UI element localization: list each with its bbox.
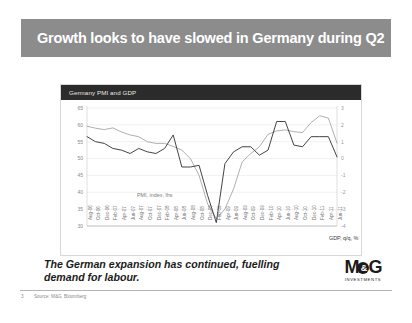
x-axis-tick-label: Jun-07	[131, 206, 136, 220]
x-axis-tick-label: Oct-08	[200, 206, 205, 220]
x-axis-tick-label: Apr-09	[226, 206, 231, 220]
x-axis-tick-label: Oct-07	[148, 206, 153, 220]
mg-investments-logo: M&G INVESTMENTS	[337, 258, 389, 282]
svg-text:40: 40	[77, 189, 83, 195]
svg-text:-2: -2	[341, 189, 346, 195]
svg-text:2: 2	[341, 122, 344, 128]
x-axis-tick-label: Dec-08	[208, 205, 213, 220]
x-axis-tick-label: Feb-07	[113, 205, 118, 220]
chart-x-axis-labels: Aug-06Oct-06Dec-06Feb-07Apr-07Jun-07Aug-…	[0, 218, 412, 262]
x-axis-tick-label: Aug-06	[88, 205, 93, 220]
chart-header-bar: Germany PMI and GDP	[61, 85, 361, 100]
x-axis-tick-label: Feb-09	[217, 205, 222, 220]
x-axis-tick-label: Oct-06	[96, 206, 101, 220]
svg-text:35: 35	[77, 206, 83, 212]
footer-divider	[20, 290, 392, 291]
x-axis-tick-label: Jun-09	[234, 206, 239, 220]
svg-text:50: 50	[77, 155, 83, 161]
logo-letter-g: G	[368, 257, 381, 277]
slide-number: 3	[21, 294, 24, 299]
chart-y-axis-labels: 6560555045403530	[77, 105, 83, 229]
svg-text:-1: -1	[341, 172, 346, 178]
series-label-pmi: PMI, index, lhs	[137, 192, 172, 198]
x-axis-tick-label: Apr-11	[329, 207, 334, 220]
svg-text:55: 55	[77, 139, 83, 145]
logo-subtitle: INVESTMENTS	[337, 277, 389, 282]
x-axis-tick-label: Feb-11	[320, 206, 325, 220]
source-note: Source: M&G, Bloomberg	[34, 294, 86, 299]
x-axis-tick-label: Jun-11	[338, 206, 343, 220]
x-axis-tick-label: Jun-08	[182, 206, 187, 220]
x-axis-tick-label: Dec-06	[105, 205, 110, 220]
x-axis-tick-label: Oct-09	[251, 206, 256, 220]
x-axis-tick-label: Aug-10	[294, 205, 299, 220]
svg-text:65: 65	[77, 105, 83, 111]
x-axis-tick-label: Feb-08	[165, 205, 170, 220]
x-axis-tick-label: Dec-10	[312, 205, 317, 220]
x-axis-tick-label: Dec-09	[260, 205, 265, 220]
svg-text:0: 0	[341, 155, 344, 161]
x-axis-tick-label: Apr-08	[174, 206, 179, 220]
svg-text:3: 3	[341, 105, 344, 111]
slide-caption: The German expansion has continued, fuel…	[44, 258, 314, 284]
x-axis-tick-label: Apr-07	[122, 206, 127, 220]
page-title: Growth looks to have slowed in Germany d…	[21, 30, 384, 46]
svg-text:45: 45	[77, 172, 83, 178]
svg-text:60: 60	[77, 122, 83, 128]
x-axis-tick-label: Apr-10	[277, 206, 282, 220]
x-axis-tick-label: Jun-10	[286, 206, 291, 220]
svg-text:1: 1	[341, 139, 344, 145]
x-axis-tick-label: Dec-07	[157, 205, 162, 220]
x-axis-tick-label: Oct-10	[303, 206, 308, 220]
logo-letter-m: M	[344, 257, 358, 277]
x-axis-tick-label: Aug-09	[243, 205, 248, 220]
x-axis-tick-label: Aug-08	[191, 205, 196, 220]
x-axis-tick-label: Aug-07	[139, 205, 144, 220]
presentation-slide: Growth looks to have slowed in Germany d…	[0, 0, 412, 323]
x-axis-tick-label: Feb-10	[269, 205, 274, 220]
chart-title: Germany PMI and GDP	[61, 89, 136, 96]
slide-title-banner: Growth looks to have slowed in Germany d…	[21, 19, 391, 57]
logo-wordmark: M&G	[337, 258, 389, 276]
